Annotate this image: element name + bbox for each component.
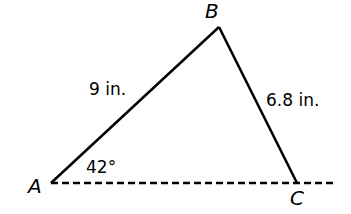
side-ab-length: 9 in. [89,79,126,99]
side-ab [51,27,219,183]
side-bc-length: 6.8 in. [266,90,319,110]
vertex-c-label: C [290,186,304,210]
triangle-diagram: B A C 9 in. 6.8 in. 42° [0,0,351,214]
angle-a-measure: 42° [86,157,116,177]
vertex-b-label: B [205,0,219,23]
vertex-a-label: A [26,174,42,198]
